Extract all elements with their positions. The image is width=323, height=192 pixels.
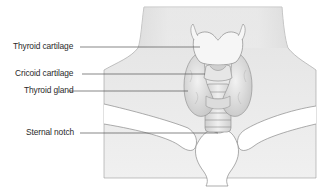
label-thyroid-gland: Thyroid gland <box>24 85 73 95</box>
thyroid-anatomy-diagram <box>0 0 323 192</box>
label-thyroid-cartilage: Thyroid cartilage <box>13 41 73 51</box>
label-cricoid-cartilage: Cricoid cartilage <box>15 68 73 78</box>
label-sternal-notch: Sternal notch <box>26 127 74 137</box>
